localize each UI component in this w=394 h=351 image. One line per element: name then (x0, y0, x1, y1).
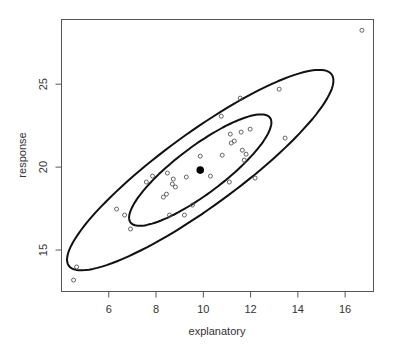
x-tick-label: 14 (292, 303, 304, 315)
data-point (165, 171, 169, 175)
x-axis-title: explanatory (189, 325, 246, 337)
data-point (129, 227, 133, 231)
data-point (151, 174, 155, 178)
data-point (182, 213, 186, 217)
data-point (75, 265, 79, 269)
data-point (244, 152, 248, 156)
y-axis: 152025 (38, 78, 62, 256)
data-point (253, 176, 257, 180)
y-tick-label: 20 (38, 161, 50, 173)
x-axis: 6810121416 (106, 292, 352, 315)
data-point (171, 177, 175, 181)
data-point (360, 28, 364, 32)
y-tick-label: 25 (38, 78, 50, 90)
x-tick-label: 10 (197, 303, 209, 315)
mean-point (196, 166, 204, 174)
data-point (198, 154, 202, 158)
data-point (239, 130, 243, 134)
data-point (219, 114, 223, 118)
y-tick-label: 15 (38, 244, 50, 256)
x-tick-label: 8 (153, 303, 159, 315)
data-point (227, 180, 231, 184)
data-point (173, 185, 177, 189)
data-point (228, 132, 232, 136)
points-layer (72, 28, 364, 282)
data-point (240, 148, 244, 152)
scatter-chart: 6810121416 152025 explanatory response (0, 0, 394, 351)
x-tick-label: 6 (106, 303, 112, 315)
data-point (248, 127, 252, 131)
data-point (220, 153, 224, 157)
data-point (242, 158, 246, 162)
x-tick-label: 16 (339, 303, 351, 315)
data-point (123, 213, 127, 217)
data-point (232, 139, 236, 143)
data-point (115, 207, 119, 211)
data-point (72, 278, 76, 282)
data-point (277, 87, 281, 91)
x-tick-label: 12 (244, 303, 256, 315)
data-point (283, 136, 287, 140)
data-point (164, 192, 168, 196)
data-point (184, 175, 188, 179)
y-axis-title: response (16, 132, 28, 177)
data-point (144, 180, 148, 184)
plot-frame (62, 20, 374, 292)
data-point (208, 174, 212, 178)
